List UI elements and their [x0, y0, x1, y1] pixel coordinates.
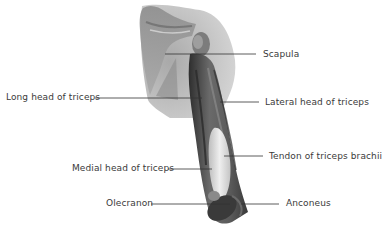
- label-anconeus: Anconeus: [286, 198, 331, 209]
- label-long-head-of-triceps: Long head of triceps: [6, 92, 100, 103]
- label-scapula: Scapula: [263, 49, 299, 60]
- label-lateral-head-of-triceps: Lateral head of triceps: [265, 97, 369, 108]
- label-tendon-of-triceps-brachii: Tendon of triceps brachii: [269, 151, 382, 162]
- label-medial-head-of-triceps: Medial head of triceps: [72, 163, 174, 174]
- label-olecranon: Olecranon: [106, 198, 153, 209]
